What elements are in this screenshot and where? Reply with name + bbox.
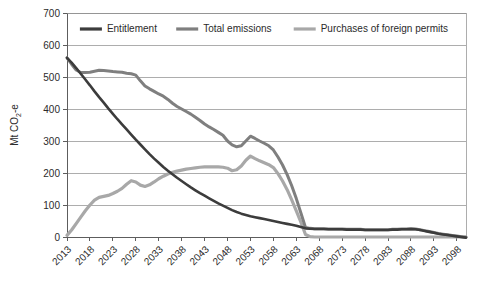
x-tick-label: 2073	[325, 243, 349, 267]
legend-label: Purchases of foreign permits	[321, 23, 448, 34]
line-chart: 0100200300400500600700 20132018202320282…	[0, 0, 485, 286]
x-tick-label: 2043	[187, 243, 211, 267]
y-axis-title-text: Mt CO2-e	[9, 104, 22, 146]
x-tick-label: 2083	[371, 243, 395, 267]
y-tick-label: 300	[43, 136, 60, 147]
x-tick-label: 2013	[50, 243, 74, 267]
y-tick-label: 400	[43, 104, 60, 115]
x-tick-label: 2078	[348, 243, 372, 267]
x-tick-label: 2068	[302, 243, 326, 267]
legend-label: Entitlement	[107, 23, 157, 34]
y-tick-label: 500	[43, 72, 60, 83]
x-tick-label: 2058	[256, 243, 280, 267]
chart-container: 0100200300400500600700 20132018202320282…	[0, 0, 485, 286]
x-tick-label: 2048	[210, 243, 234, 267]
plot-background	[67, 13, 466, 237]
y-tick-label: 600	[43, 40, 60, 51]
x-tick-label: 2053	[233, 243, 257, 267]
y-tick-label: 700	[43, 8, 60, 19]
y-tick-label: 200	[43, 168, 60, 179]
y-axis-title: Mt CO2-e	[9, 104, 22, 146]
chart-legend: EntitlementTotal emissionsPurchases of f…	[80, 23, 448, 34]
y-tick-label: 0	[54, 232, 60, 243]
x-tick-label: 2018	[73, 243, 97, 267]
x-axis-ticks: 2013201820232028203320382043204820532058…	[50, 237, 464, 267]
x-tick-label: 2093	[417, 243, 441, 267]
x-tick-label: 2023	[96, 243, 120, 267]
x-tick-label: 2028	[119, 243, 143, 267]
legend-label: Total emissions	[203, 23, 271, 34]
x-tick-label: 2038	[165, 243, 189, 267]
x-tick-label: 2088	[394, 243, 418, 267]
x-tick-label: 2063	[279, 243, 303, 267]
y-tick-label: 100	[43, 200, 60, 211]
x-tick-label: 2098	[440, 243, 464, 267]
x-tick-label: 2033	[142, 243, 166, 267]
y-axis-ticks: 0100200300400500600700	[43, 8, 67, 243]
